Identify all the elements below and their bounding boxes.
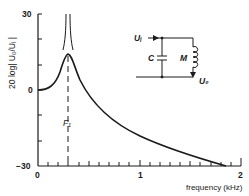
circuit-capacitor-label: C [148, 54, 154, 63]
f1-label: F₁ [63, 119, 71, 128]
y-axis-label: 20 log| U₀/Uᵢ | [7, 37, 17, 89]
series-ideal-spike [63, 14, 73, 50]
chart-plot [0, 0, 249, 196]
series-damped-curve [38, 54, 226, 166]
x-tick-label-2: 2 [238, 171, 243, 180]
circuit-inductor-label: M [180, 54, 187, 63]
x-axis-label: frequency (kHz) [186, 184, 242, 192]
x-tick-label-1: 1 [138, 171, 143, 180]
circuit-input-label: Uᵢ [134, 34, 142, 43]
y-tick-label-zero: 0 [28, 86, 33, 95]
circuit-diagram [136, 35, 198, 78]
x-tick-label-0: 0 [35, 171, 40, 180]
y-tick-label-top: 30 [22, 10, 31, 19]
circuit-output-label: U₀ [199, 77, 209, 86]
y-tick-label-bottom: −30 [16, 162, 30, 171]
